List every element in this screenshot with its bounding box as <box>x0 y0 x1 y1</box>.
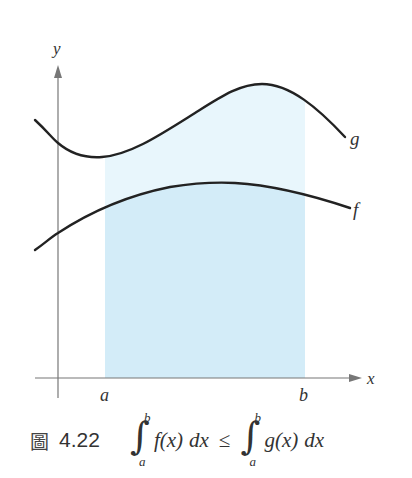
left-differential: dx <box>189 428 209 453</box>
tick-label-b: b <box>299 385 308 405</box>
figure-char: 圖 <box>30 427 49 454</box>
x-axis-arrow-icon <box>349 374 362 382</box>
y-axis-label: y <box>51 39 61 58</box>
curve-g-label: g <box>350 128 360 149</box>
integral-comparison-figure: y x g f a b <box>0 0 412 478</box>
x-axis-label: x <box>366 369 375 388</box>
right-integral-sign: ∫ b a <box>240 418 262 462</box>
caption-formula: ∫ b a f(x) dx ≤ ∫ b a g(x) dx <box>130 418 324 462</box>
curve-f-label: f <box>353 199 361 220</box>
left-integral-sign: ∫ b a <box>130 418 152 462</box>
left-integral-lower: a <box>139 454 146 470</box>
y-axis-arrow-icon <box>54 65 62 78</box>
tick-label-a: a <box>100 385 109 405</box>
right-integral-upper: b <box>254 410 261 426</box>
right-differential: dx <box>304 428 324 453</box>
figure-caption: 圖 4.22 ∫ b a f(x) dx ≤ ∫ b a g(x) dx <box>30 420 324 460</box>
right-integral-lower: a <box>249 454 256 470</box>
relation-symbol: ≤ <box>219 428 231 453</box>
shaded-region <box>35 84 350 378</box>
right-integrand: g(x) <box>264 428 298 453</box>
left-integrand: f(x) <box>154 428 183 453</box>
left-integral-upper: b <box>144 410 151 426</box>
region-under-f <box>35 183 350 378</box>
figure-number: 4.22 <box>59 428 100 452</box>
